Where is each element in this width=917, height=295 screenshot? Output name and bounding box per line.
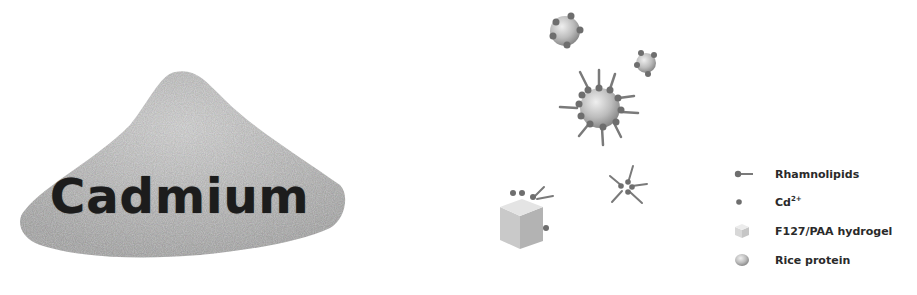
powder-pile-shape bbox=[20, 71, 345, 257]
cd-ion-icon bbox=[733, 196, 757, 208]
legend-item-rhamnolipids: Rhamnolipids bbox=[733, 163, 757, 185]
cd-charge: 2+ bbox=[791, 195, 802, 203]
rice-protein-particle-icon bbox=[550, 13, 584, 49]
adsorption-diagram bbox=[480, 0, 730, 280]
protein-rhamnolipid-micelle-icon bbox=[560, 70, 638, 145]
cadmium-label: Cadmium bbox=[50, 168, 310, 224]
legend-item-hydrogel: F127/PAA hydrogel bbox=[733, 220, 757, 242]
rhamnolipid-cd-complex-icon bbox=[610, 166, 647, 203]
hydrogel-cube-icon bbox=[500, 187, 553, 249]
rhamnolipid-icon bbox=[733, 168, 757, 180]
rice-protein-icon bbox=[733, 252, 757, 268]
rice-protein-particle-small-icon bbox=[634, 50, 657, 77]
hydrogel-cube-icon bbox=[733, 223, 757, 239]
cd-label: Cd bbox=[775, 196, 791, 209]
legend-item-rice-protein: Rice protein bbox=[733, 249, 757, 271]
legend-item-cd: Cd2+ bbox=[733, 191, 757, 213]
